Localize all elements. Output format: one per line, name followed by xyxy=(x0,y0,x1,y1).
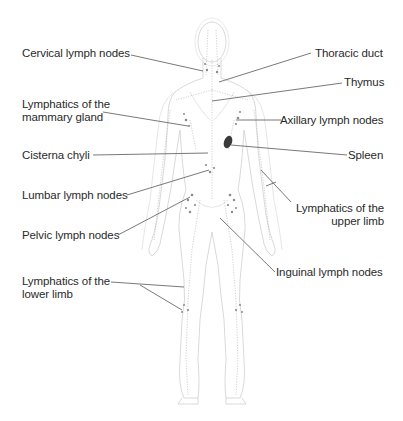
label-lumbar-lymph-nodes: Lumbar lymph nodes xyxy=(22,189,128,202)
label-thymus: Thymus xyxy=(344,76,384,89)
label-cervical-lymph-nodes: Cervical lymph nodes xyxy=(22,47,130,60)
label-lymphatics-lower-limb: Lymphatics of the lower limb xyxy=(22,275,110,301)
label-pelvic-lymph-nodes: Pelvic lymph nodes xyxy=(22,229,119,242)
spleen-organ xyxy=(222,135,234,150)
label-thoracic-duct: Thoracic duct xyxy=(315,47,383,60)
label-spleen: Spleen xyxy=(348,149,383,162)
label-lymphatics-mammary-gland: Lymphatics of the mammary gland xyxy=(22,98,110,124)
lymph-vessels xyxy=(154,30,270,395)
label-inguinal-lymph-nodes: Inguinal lymph nodes xyxy=(276,266,383,279)
label-axillary-lymph-nodes: Axillary lymph nodes xyxy=(280,114,383,127)
label-cisterna-chyli: Cisterna chyli xyxy=(22,149,90,162)
label-lymphatics-upper-limb: Lymphatics of the upper limb xyxy=(290,202,384,228)
